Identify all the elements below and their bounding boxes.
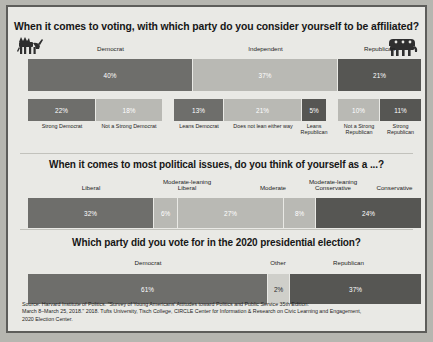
column-label-vote-republican: Republican (276, 260, 421, 266)
sub-value-leans-democrat: 13% (192, 107, 205, 114)
bar-value-moderate-leaning-liberal: 6% (161, 210, 170, 217)
sub-value-not-strong-democrat: 18% (123, 107, 136, 114)
chart1-title: When it comes to voting, with which part… (8, 21, 425, 32)
chart1-main-bar: 40% 37% 21% (8, 59, 425, 91)
sub-segment-not-strong-republican: 10% (338, 99, 380, 121)
infographic-frame: When it comes to voting, with which part… (6, 5, 427, 333)
chart1-breakdown-bar: 22% 18% 13% 21% 5% 10% 11% (8, 99, 425, 121)
bar-segment-liberal: 32% (28, 198, 154, 228)
bar-value-democrat: 40% (104, 72, 117, 79)
bar-value-conservative: 24% (362, 210, 375, 217)
bar-segment-democrat: 40% (28, 59, 193, 91)
chart3-title: Which party did you vote for in the 2020… (8, 237, 425, 248)
sub-value-strong-democrat: 22% (55, 107, 68, 114)
source-note: Source: Harvard Institute of Politics. "… (22, 301, 413, 323)
section-divider-2 (20, 229, 413, 230)
source-line-2: March 8–March 25, 2018." 2018. Tufts Uni… (22, 308, 413, 315)
sub-value-not-strong-republican: 10% (352, 107, 365, 114)
chart1-label-row: Democrat Independent Republican (8, 46, 425, 57)
sub-segment-not-strong-democrat: 18% (96, 99, 162, 121)
sub-segment-strong-democrat: 22% (28, 99, 96, 121)
chart-2020-presidential-vote: Which party did you vote for in the 2020… (8, 237, 425, 304)
section-divider-1 (20, 153, 413, 154)
chart3-label-row: Democrat Other Republican (8, 260, 425, 271)
bar-value-vote-other: 2% (274, 286, 283, 293)
bar-segment-moderate: 27% (178, 198, 284, 228)
column-label-vote-democrat: Democrat (28, 260, 268, 266)
sub-value-strong-republican: 11% (394, 107, 406, 114)
chart2-title: When it comes to most political issues, … (8, 159, 425, 170)
source-line-1: Source: Harvard Institute of Politics. "… (22, 301, 413, 308)
chart-political-ideology: When it comes to most political issues, … (8, 159, 425, 228)
bar-value-independent: 37% (259, 72, 272, 79)
sub-label-not-strong-democrat: Not a Strong Democrat (96, 123, 162, 129)
bar-segment-vote-republican: 37% (290, 274, 421, 304)
bar-segment-moderate-leaning-liberal: 6% (154, 198, 178, 228)
sub-label-leans-democrat: Leans Democrat (174, 123, 224, 129)
column-label-moderate-leaning-liberal: Moderate-leaning Liberal (154, 179, 220, 192)
sub-value-does-not-lean: 21% (256, 107, 269, 114)
bar-value-moderate-leaning-conservative: 8% (295, 210, 304, 217)
sub-label-does-not-lean: Does not lean either way (224, 123, 302, 129)
bar-segment-independent: 37% (193, 59, 338, 91)
sub-segment-leans-democrat: 13% (174, 99, 224, 121)
sub-label-not-strong-republican: Not a Strong Republican (338, 123, 380, 135)
sub-label-leans-republican: Leans Republican (298, 123, 330, 135)
sub-value-leans-republican: 5% (309, 107, 318, 114)
column-label-conservative: Conservative (368, 185, 421, 191)
infographic-page: When it comes to voting, with which part… (0, 0, 433, 342)
sub-label-strong-democrat: Strong Democrat (28, 123, 96, 129)
sub-label-strong-republican: Strong Republican (380, 123, 421, 135)
column-label-liberal: Liberal (28, 185, 154, 191)
chart1-sublabel-row: Strong Democrat Not a Strong Democrat Le… (8, 123, 425, 137)
bar-segment-moderate-leaning-conservative: 8% (284, 198, 316, 228)
bar-segment-conservative: 24% (316, 198, 421, 228)
bar-segment-vote-other: 2% (268, 274, 290, 304)
bar-segment-republican: 21% (338, 59, 421, 91)
sub-segment-strong-republican: 11% (380, 99, 421, 121)
bar-value-republican: 21% (373, 72, 386, 79)
bar-value-vote-republican: 37% (349, 286, 362, 293)
column-label-democrat: Democrat (28, 46, 193, 52)
bar-value-moderate: 27% (224, 210, 237, 217)
chart-party-affiliation: When it comes to voting, with which part… (8, 21, 425, 137)
source-line-3: 2020 Election Center. (22, 316, 413, 323)
chart3-bar: 61% 2% 37% (8, 274, 425, 304)
column-label-independent: Independent (193, 46, 338, 52)
sub-segment-does-not-lean: 21% (224, 99, 302, 121)
bar-value-vote-democrat: 61% (141, 286, 154, 293)
chart2-label-row: Liberal Moderate-leaning Liberal Moderat… (8, 179, 425, 195)
sub-segment-leans-republican: 5% (302, 99, 326, 121)
bar-segment-vote-democrat: 61% (28, 274, 268, 304)
column-label-moderate-leaning-conservative: Moderate-leaning Conservative (296, 179, 370, 192)
chart2-bar: 32% 6% 27% 8% 24% (8, 198, 425, 228)
bar-value-liberal: 32% (84, 210, 97, 217)
column-label-republican: Republican (338, 46, 421, 52)
